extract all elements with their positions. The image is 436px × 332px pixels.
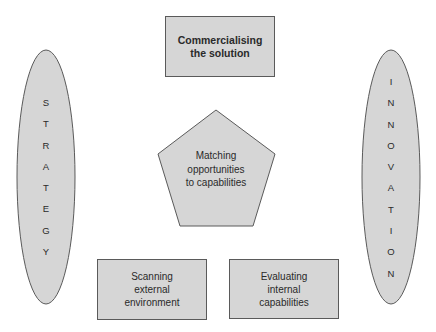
strategy-letter: A — [43, 156, 49, 177]
evaluating-label: Evaluating internal capabilities — [259, 270, 308, 309]
strategy-letter: E — [43, 198, 49, 219]
strategy-letter: S — [43, 92, 49, 113]
innovation-letter: I — [390, 220, 393, 241]
strategy-letter: T — [43, 113, 49, 134]
strategy-letter: G — [42, 220, 49, 241]
commercialising-box: Commercialising the solution — [165, 16, 275, 77]
matching-label: Matching opportunities to capabilities — [166, 149, 266, 190]
innovation-letter: I — [390, 71, 393, 92]
innovation-letter: O — [387, 241, 394, 262]
innovation-letter: A — [388, 177, 394, 198]
strategy-label: S T R A T E G Y — [38, 92, 54, 262]
evaluating-box: Evaluating internal capabilities — [229, 259, 339, 319]
innovation-label: I N N O V A T I O N — [383, 71, 399, 284]
commercialising-label: Commercialising the solution — [178, 34, 263, 60]
strategy-letter: T — [43, 177, 49, 198]
innovation-letter: O — [387, 135, 394, 156]
innovation-letter: T — [388, 199, 394, 220]
innovation-letter: N — [388, 114, 395, 135]
innovation-letter: N — [388, 263, 395, 284]
innovation-letter: V — [388, 156, 394, 177]
scanning-label: Scanning external environment — [124, 270, 179, 309]
scanning-box: Scanning external environment — [97, 259, 207, 320]
innovation-letter: N — [388, 92, 395, 113]
strategy-letter: R — [43, 135, 50, 156]
strategy-letter: Y — [43, 241, 49, 262]
